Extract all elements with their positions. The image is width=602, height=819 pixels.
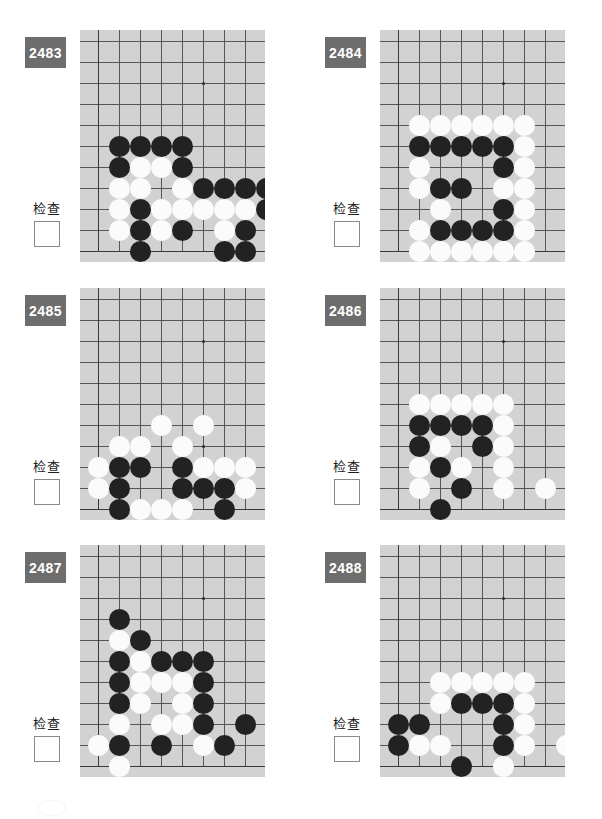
go-board[interactable]: [80, 288, 265, 520]
black-stone: [493, 714, 514, 735]
board-grid-line-horizontal: [380, 509, 565, 510]
go-board[interactable]: [380, 288, 565, 520]
white-stone: [409, 478, 430, 499]
white-stone: [130, 436, 151, 457]
black-stone: [493, 735, 514, 756]
black-stone: [472, 136, 493, 157]
white-stone: [514, 693, 535, 714]
check-label: 检查: [33, 713, 61, 732]
board-grid-line-horizontal: [380, 188, 565, 189]
board-grid-line-vertical: [524, 288, 525, 509]
board-grid-line-vertical: [545, 545, 546, 766]
problem-number-badge: 2488: [325, 552, 366, 583]
black-stone: [109, 136, 130, 157]
problem-sidebar: 2487检查: [0, 545, 80, 785]
white-stone: [109, 199, 130, 220]
white-stone: [451, 457, 472, 478]
white-stone: [88, 457, 109, 478]
check-label: 检查: [333, 456, 361, 475]
white-stone: [409, 394, 430, 415]
white-stone: [493, 436, 514, 457]
star-point: [502, 597, 505, 600]
check-checkbox[interactable]: [34, 221, 60, 247]
white-stone: [472, 394, 493, 415]
white-stone: [235, 457, 256, 478]
board-grid-line-horizontal: [380, 209, 565, 210]
board-grid-line-horizontal: [380, 320, 565, 321]
board-grid-line-vertical: [98, 30, 99, 251]
white-stone: [493, 415, 514, 436]
problem-sidebar: 2485检查: [0, 288, 80, 528]
black-stone: [130, 630, 151, 651]
white-stone: [409, 735, 430, 756]
white-stone: [172, 672, 193, 693]
black-stone: [472, 693, 493, 714]
black-stone: [109, 457, 130, 478]
check-checkbox[interactable]: [334, 736, 360, 762]
check-checkbox[interactable]: [334, 479, 360, 505]
board-grid-line-horizontal: [80, 104, 265, 105]
black-stone: [451, 220, 472, 241]
white-stone: [514, 199, 535, 220]
board-grid-line-horizontal: [380, 83, 565, 84]
check-checkbox[interactable]: [34, 736, 60, 762]
black-stone: [451, 756, 472, 777]
white-stone: [409, 157, 430, 178]
board-grid-line-horizontal: [80, 598, 265, 599]
go-board[interactable]: [80, 545, 265, 777]
white-stone: [430, 735, 451, 756]
go-board[interactable]: [380, 30, 565, 262]
white-stone: [151, 714, 172, 735]
problem-number-badge: 2486: [325, 295, 366, 326]
white-stone: [430, 436, 451, 457]
star-point: [202, 82, 205, 85]
white-stone: [235, 478, 256, 499]
star-point: [502, 82, 505, 85]
white-stone: [514, 735, 535, 756]
board-grid-line-horizontal: [80, 125, 265, 126]
page-artifact-mark: [38, 800, 66, 816]
white-stone: [409, 241, 430, 262]
go-board[interactable]: [380, 545, 565, 777]
white-stone: [514, 714, 535, 735]
check-checkbox[interactable]: [334, 221, 360, 247]
white-stone: [88, 735, 109, 756]
board-grid-line-vertical: [461, 545, 462, 766]
board-grid-line-horizontal: [80, 577, 265, 578]
white-stone: [430, 394, 451, 415]
black-stone: [214, 499, 235, 520]
white-stone: [109, 220, 130, 241]
white-stone: [409, 178, 430, 199]
black-stone: [409, 415, 430, 436]
board-grid-line-horizontal: [80, 425, 265, 426]
board-grid-line-horizontal: [380, 577, 565, 578]
white-stone: [451, 115, 472, 136]
black-stone: [493, 136, 514, 157]
star-point: [502, 340, 505, 343]
white-stone: [109, 714, 130, 735]
black-stone: [214, 241, 235, 262]
board-grid-line-horizontal: [80, 383, 265, 384]
black-stone: [409, 436, 430, 457]
black-stone: [409, 136, 430, 157]
white-stone: [130, 651, 151, 672]
go-board[interactable]: [80, 30, 265, 262]
white-stone: [214, 199, 235, 220]
check-checkbox[interactable]: [34, 479, 60, 505]
problem-sidebar: 2484检查: [300, 30, 380, 270]
white-stone: [472, 241, 493, 262]
black-stone: [493, 157, 514, 178]
black-stone: [193, 672, 214, 693]
black-stone: [235, 714, 256, 735]
black-stone: [109, 499, 130, 520]
problem-number-badge: 2483: [25, 37, 66, 68]
board-grid-line-vertical: [224, 545, 225, 766]
black-stone: [193, 693, 214, 714]
white-stone: [451, 241, 472, 262]
problem-sidebar: 2486检查: [300, 288, 380, 528]
black-stone: [151, 651, 172, 672]
white-stone: [556, 735, 565, 756]
white-stone: [109, 436, 130, 457]
white-stone: [151, 157, 172, 178]
black-stone: [256, 199, 265, 220]
